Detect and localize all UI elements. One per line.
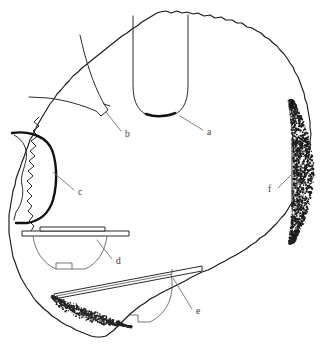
stipple-dot xyxy=(294,155,296,157)
stipple-dot xyxy=(295,166,297,168)
stipple-dot xyxy=(303,184,305,186)
stipple-dot xyxy=(294,143,296,145)
stipple-dot xyxy=(298,226,300,228)
stipple-dot xyxy=(303,143,304,144)
stipple-dot xyxy=(307,151,309,153)
stipple-dot xyxy=(309,152,310,153)
stipple-dot xyxy=(67,304,68,305)
stipple-dot xyxy=(297,230,299,232)
label-b: b xyxy=(125,129,130,139)
stipple-dot xyxy=(299,122,301,124)
stipple-dot xyxy=(306,172,308,174)
stipple-dot xyxy=(82,317,83,318)
stipple-dot xyxy=(73,309,75,311)
stipple-dot xyxy=(312,170,313,171)
stipple-dot xyxy=(292,187,293,188)
stipple-dot xyxy=(298,178,299,179)
stipple-dot xyxy=(63,307,64,308)
stipple-dot xyxy=(54,297,56,299)
stipple-dot xyxy=(59,303,60,304)
stipple-dot xyxy=(89,318,90,319)
stipple-dot xyxy=(108,323,109,324)
stipple-dot xyxy=(292,124,293,125)
stipple-dot xyxy=(311,151,313,153)
stipple-dot xyxy=(85,311,86,312)
stipple-dot xyxy=(296,129,297,130)
stipple-dot xyxy=(302,153,304,155)
stipple-dot xyxy=(300,198,301,199)
stipple-dot xyxy=(311,164,313,166)
stipple-dot xyxy=(289,231,291,233)
stipple-dot xyxy=(93,312,94,313)
stipple-dot xyxy=(89,311,90,312)
stipple-dot xyxy=(293,126,295,128)
stipple-dot xyxy=(98,318,100,320)
stipple-dot xyxy=(83,308,85,310)
stipple-dot xyxy=(69,308,71,310)
stipple-dot xyxy=(299,186,300,187)
stipple-dot xyxy=(296,134,298,136)
stipple-dot xyxy=(295,138,296,139)
stipple-dot xyxy=(297,233,298,234)
stipple-dot xyxy=(294,132,296,134)
stipple-dot xyxy=(98,315,99,316)
stipple-dot xyxy=(304,132,306,134)
stipple-dot xyxy=(302,137,304,139)
stipple-dot xyxy=(298,183,300,185)
stipple-dot xyxy=(309,197,311,199)
stipple-dot xyxy=(293,178,295,180)
stipple-dot xyxy=(292,122,294,124)
stipple-dot xyxy=(310,157,311,158)
stipple-dot xyxy=(296,228,298,230)
stipple-dot xyxy=(301,126,303,128)
stipple-dot xyxy=(293,184,295,186)
stipple-dot xyxy=(304,179,306,181)
stipple-dot xyxy=(303,191,304,192)
stipple-dot xyxy=(292,128,293,129)
stipple-dot xyxy=(302,211,303,212)
stipple-dot xyxy=(305,149,307,151)
stipple-dot xyxy=(100,322,102,324)
stipple-dot xyxy=(294,147,296,149)
stipple-dot xyxy=(85,319,87,321)
stipple-dot xyxy=(102,320,104,322)
stipple-dot xyxy=(302,170,304,172)
stipple-dot xyxy=(299,205,300,206)
stipple-dot xyxy=(310,176,312,178)
stipple-dot xyxy=(310,179,312,181)
stipple-dot xyxy=(292,100,294,102)
stipple-dot xyxy=(307,138,309,140)
stipple-dot xyxy=(305,170,306,171)
stipple-dot xyxy=(300,186,302,188)
stipple-dot xyxy=(308,191,309,192)
stipple-dot xyxy=(302,167,303,168)
stipple-dot xyxy=(61,300,63,302)
stipple-dot xyxy=(308,199,309,200)
stipple-dot xyxy=(290,243,292,245)
stipple-dot xyxy=(296,163,297,164)
label-c: c xyxy=(78,187,82,197)
stipple-dot xyxy=(296,114,297,115)
stipple-dot xyxy=(295,211,296,212)
stipple-dot xyxy=(88,312,89,313)
stipple-dot xyxy=(92,314,93,315)
stipple-dot xyxy=(294,175,295,176)
stipple-dot xyxy=(292,214,294,216)
stipple-dot xyxy=(298,115,300,117)
stipple-dot xyxy=(296,235,298,237)
stipple-dot xyxy=(304,129,306,131)
stipple-dot xyxy=(300,129,302,131)
stipple-dot xyxy=(304,158,306,160)
stipple-dot xyxy=(294,106,296,108)
stipple-dot xyxy=(87,318,89,320)
stipple-dot xyxy=(300,172,302,174)
stipple-dot xyxy=(106,322,108,324)
stipple-dot xyxy=(310,144,312,146)
stipple-dot xyxy=(51,296,53,298)
stipple-dot xyxy=(293,144,294,145)
stipple-dot xyxy=(310,186,312,188)
stipple-dot xyxy=(295,208,296,209)
stipple-dot xyxy=(298,232,299,233)
stipple-dot xyxy=(299,196,301,198)
stipple-dot xyxy=(299,145,301,147)
